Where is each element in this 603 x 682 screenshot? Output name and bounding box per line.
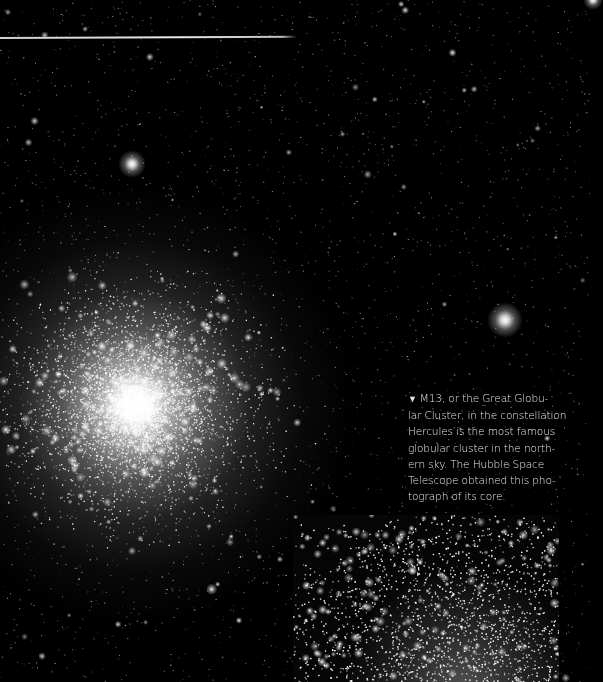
triangle-marker-icon: ▼ (408, 394, 417, 404)
bright-star (487, 302, 523, 338)
caption-line: Telescope obtained this pho- (408, 472, 580, 488)
caption-line: ▼M13, or the Great Globu- (408, 390, 580, 407)
caption-line: lar Cluster, in the constellation (408, 407, 580, 423)
caption-line: Hercules is the most famous (408, 423, 580, 439)
bright-star (118, 150, 146, 178)
caption-line: globular cluster in the north- (408, 440, 580, 456)
caption-line: ern sky. The Hubble Space (408, 456, 580, 472)
hubble-inset-photo (293, 515, 559, 682)
photo-caption: ▼M13, or the Great Globu- lar Cluster, i… (408, 390, 580, 504)
caption-line: tograph of its core. (408, 488, 580, 504)
inset-star-field (293, 515, 559, 682)
